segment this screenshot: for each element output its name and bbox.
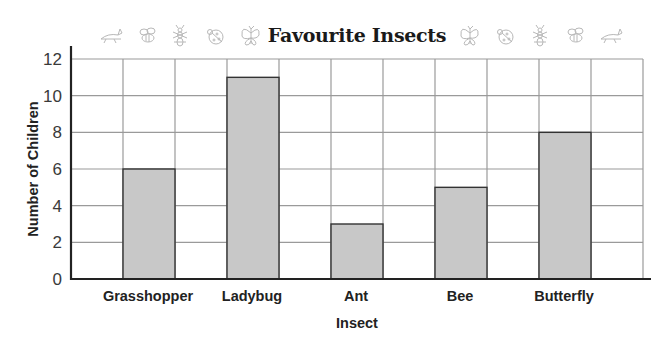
ant-icon bbox=[173, 25, 187, 46]
ladybug-icon bbox=[498, 30, 514, 45]
x-tick-label: Ladybug bbox=[222, 288, 282, 304]
y-tick-label: 4 bbox=[53, 197, 62, 216]
title-decorations-right bbox=[461, 25, 622, 46]
x-tick-label: Bee bbox=[447, 288, 474, 304]
x-tick-label: Ant bbox=[344, 288, 368, 304]
ant-icon bbox=[533, 25, 547, 46]
bar-ant bbox=[331, 224, 383, 279]
ladybug-icon bbox=[208, 30, 224, 45]
x-tick-label: Grasshopper bbox=[103, 288, 194, 304]
x-axis-label: Insect bbox=[336, 315, 378, 331]
bars bbox=[123, 77, 591, 279]
y-axis-label: Number of Children bbox=[25, 101, 41, 236]
bee-icon bbox=[568, 28, 583, 42]
x-tick-label: Butterfly bbox=[534, 288, 594, 304]
bar-bee bbox=[435, 187, 487, 279]
bee-icon bbox=[140, 28, 155, 42]
grasshopper-icon bbox=[601, 29, 622, 43]
y-tick-label: 10 bbox=[43, 87, 62, 106]
bar-grasshopper bbox=[123, 169, 175, 279]
bar-ladybug bbox=[227, 77, 279, 279]
title-decorations-left bbox=[101, 25, 259, 46]
x-category-labels: GrasshopperLadybugAntBeeButterfly bbox=[103, 288, 594, 304]
chart-title: Favourite Insects bbox=[268, 24, 446, 46]
y-tick-label: 6 bbox=[53, 160, 62, 179]
bar-butterfly bbox=[539, 132, 591, 279]
butterfly-icon bbox=[461, 26, 478, 45]
y-tick-labels: 024681012 bbox=[43, 50, 62, 289]
bar-chart: Favourite Insects 024681012 GrasshopperL… bbox=[0, 0, 672, 342]
butterfly-icon bbox=[242, 26, 259, 45]
y-tick-label: 12 bbox=[43, 50, 62, 69]
y-tick-label: 8 bbox=[53, 123, 62, 142]
grasshopper-icon bbox=[101, 29, 122, 43]
y-tick-label: 0 bbox=[53, 270, 62, 289]
y-tick-label: 2 bbox=[53, 233, 62, 252]
